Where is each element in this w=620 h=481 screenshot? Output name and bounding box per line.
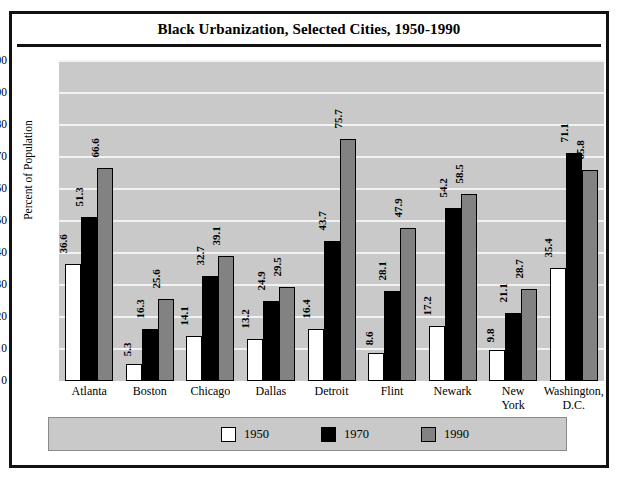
- bar-value-label: 14.1: [174, 316, 185, 335]
- bar-dallas-1970[interactable]: 24.9: [263, 301, 279, 381]
- bar-value-label: 25.6: [145, 279, 156, 298]
- y-axis-tick-label: 40: [0, 247, 7, 259]
- legend-label: 1970: [344, 427, 369, 442]
- y-axis-tick-label: 90: [0, 87, 7, 99]
- x-axis-label-new-york: NewYork: [483, 384, 544, 412]
- bar-detroit-1950[interactable]: 16.4: [308, 329, 324, 381]
- bar-value-label: 43.7: [311, 221, 322, 240]
- bar-new-york-1990[interactable]: 28.7: [521, 289, 537, 381]
- bar-group: 16.443.775.7: [308, 61, 356, 381]
- bar-value-label: 39.1: [206, 236, 217, 255]
- legend-item-1970[interactable]: 1970: [321, 427, 369, 442]
- legend-swatch-white: [221, 427, 236, 442]
- y-axis-tick-label: 0: [1, 375, 7, 387]
- legend-swatch-gray: [421, 427, 436, 442]
- bar-value-label: 65.8: [569, 150, 580, 169]
- bar-value-label: 28.7: [509, 269, 520, 288]
- x-axis-label-boston: Boston: [120, 384, 181, 398]
- bar-group: 13.224.929.5: [247, 61, 295, 381]
- bar-value-label: 16.4: [295, 308, 306, 327]
- y-axis-tick-label: 50: [0, 215, 7, 227]
- bar-group: 5.316.325.6: [126, 61, 174, 381]
- y-axis-tick-label: 100: [0, 55, 7, 67]
- bar-group: 9.821.128.7: [489, 61, 537, 381]
- bar-flint-1990[interactable]: 47.9: [400, 228, 416, 381]
- bar-value-label: 54.2: [432, 187, 443, 206]
- bar-washington-d-c-1970[interactable]: 71.1: [566, 153, 582, 381]
- bar-newark-1970[interactable]: 54.2: [445, 208, 461, 381]
- y-axis-tick-label: 20: [0, 311, 7, 323]
- bar-atlanta-1990[interactable]: 66.6: [97, 168, 113, 381]
- bar-boston-1990[interactable]: 25.6: [158, 299, 174, 381]
- chart-title-bar: Black Urbanization, Selected Cities, 195…: [12, 14, 606, 45]
- legend-items: 195019701990: [221, 427, 469, 442]
- bar-atlanta-1970[interactable]: 51.3: [81, 217, 97, 381]
- bar-value-label: 8.6: [358, 339, 369, 353]
- bar-group: 17.254.258.5: [429, 61, 477, 381]
- legend-item-1990[interactable]: 1990: [421, 427, 469, 442]
- bar-new-york-1950[interactable]: 9.8: [489, 350, 505, 381]
- bar-value-label: 29.5: [266, 266, 277, 285]
- bar-chicago-1970[interactable]: 32.7: [202, 276, 218, 381]
- bar-value-label: 13.2: [234, 319, 245, 338]
- bar-value-label: 32.7: [190, 256, 201, 275]
- chart-figure: Black Urbanization, Selected Cities, 195…: [9, 11, 609, 468]
- bar-newark-1950[interactable]: 17.2: [429, 326, 445, 381]
- legend-item-1950[interactable]: 1950: [221, 427, 269, 442]
- bar-group: 14.132.739.1: [186, 61, 234, 381]
- y-axis-tick-label: 10: [0, 343, 7, 355]
- y-axis-tick-label: 60: [0, 183, 7, 195]
- bar-new-york-1970[interactable]: 21.1: [505, 313, 521, 381]
- bar-dallas-1990[interactable]: 29.5: [279, 287, 295, 381]
- chart-legend: 195019701990: [48, 417, 567, 451]
- x-axis-label-washington-d-c: Washington,D.C.: [543, 384, 604, 412]
- bar-flint-1950[interactable]: 8.6: [368, 353, 384, 381]
- legend-swatch-black: [321, 427, 336, 442]
- bar-value-label: 28.1: [371, 271, 382, 290]
- y-axis-tick-label: 80: [0, 119, 7, 131]
- bar-value-label: 9.8: [479, 335, 490, 349]
- bar-group: 35.471.165.8: [550, 61, 598, 381]
- x-axis-label-dallas: Dallas: [241, 384, 302, 398]
- bar-flint-1970[interactable]: 28.1: [384, 291, 400, 381]
- bar-value-label: 71.1: [553, 133, 564, 152]
- bar-detroit-1990[interactable]: 75.7: [340, 139, 356, 381]
- x-axis-label-atlanta: Atlanta: [59, 384, 120, 398]
- bar-value-label: 16.3: [129, 309, 140, 328]
- bar-value-label: 5.3: [116, 349, 127, 363]
- legend-label: 1950: [244, 427, 269, 442]
- bar-value-label: 47.9: [387, 207, 398, 226]
- plot-area: 36.651.366.65.316.325.614.132.739.113.22…: [59, 61, 604, 381]
- bar-value-label: 35.4: [537, 247, 548, 266]
- bar-value-label: 17.2: [416, 306, 427, 325]
- x-axis-label-newark: Newark: [422, 384, 483, 398]
- bar-washington-d-c-1990[interactable]: 65.8: [582, 170, 598, 381]
- x-axis-label-flint: Flint: [362, 384, 423, 398]
- bar-value-label: 24.9: [250, 281, 261, 300]
- bar-value-label: 75.7: [327, 119, 338, 138]
- y-axis-ticks: 1009080706050403020100: [0, 61, 7, 381]
- bar-boston-1950[interactable]: 5.3: [126, 364, 142, 381]
- x-axis-label-detroit: Detroit: [301, 384, 362, 398]
- y-axis-tick-label: 30: [0, 279, 7, 291]
- bar-value-label: 51.3: [69, 197, 80, 216]
- bar-atlanta-1950[interactable]: 36.6: [65, 264, 81, 381]
- bar-newark-1990[interactable]: 58.5: [461, 194, 477, 381]
- bar-chicago-1950[interactable]: 14.1: [186, 336, 202, 381]
- bar-value-label: 21.1: [493, 293, 504, 312]
- x-axis-label-chicago: Chicago: [180, 384, 241, 398]
- legend-label: 1990: [444, 427, 469, 442]
- title-divider: [17, 44, 601, 47]
- y-axis-tick-label: 70: [0, 151, 7, 163]
- bar-chicago-1990[interactable]: 39.1: [218, 256, 234, 381]
- bar-boston-1970[interactable]: 16.3: [142, 329, 158, 381]
- bar-dallas-1950[interactable]: 13.2: [247, 339, 263, 381]
- bar-value-label: 58.5: [448, 174, 459, 193]
- bar-washington-d-c-1950[interactable]: 35.4: [550, 268, 566, 381]
- bar-value-label: 66.6: [85, 148, 96, 167]
- y-axis-label: Percent of Population: [22, 90, 34, 250]
- page-title: Black Urbanization, Selected Cities, 195…: [158, 21, 461, 38]
- bar-detroit-1970[interactable]: 43.7: [324, 241, 340, 381]
- bar-group: 8.628.147.9: [368, 61, 416, 381]
- bar-value-label: 36.6: [53, 244, 64, 263]
